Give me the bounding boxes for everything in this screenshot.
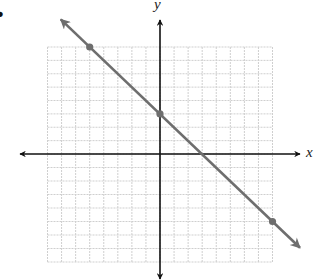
- x-axis-label: x: [306, 144, 313, 161]
- graph-svg: [0, 0, 315, 280]
- y-axis-label: y: [154, 0, 161, 13]
- coordinate-plane: • y x: [0, 0, 315, 280]
- data-point: [269, 218, 276, 225]
- graphed-line: [61, 19, 300, 247]
- data-point: [86, 43, 93, 50]
- data-point: [156, 110, 163, 117]
